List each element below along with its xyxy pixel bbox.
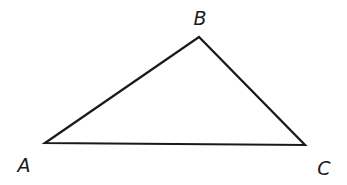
triangle-abc: [45, 37, 305, 145]
triangle-svg: [0, 0, 347, 185]
triangle-diagram: A B C: [0, 0, 347, 185]
vertex-label-a: A: [18, 156, 31, 175]
vertex-label-b: B: [193, 9, 206, 28]
vertex-label-c: C: [317, 159, 330, 178]
